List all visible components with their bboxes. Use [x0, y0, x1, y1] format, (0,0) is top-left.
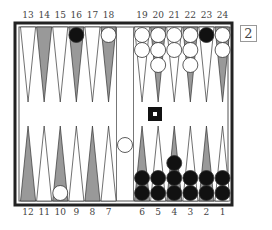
- black-checker-point-5[interactable]: [151, 171, 166, 186]
- point-label-12: 12: [20, 207, 36, 217]
- white-checker-point-19[interactable]: [135, 43, 150, 58]
- point-label-18: 18: [101, 10, 117, 20]
- black-checker-point-3[interactable]: [183, 171, 198, 186]
- point-label-16: 16: [68, 10, 84, 20]
- cube-value: 2: [244, 26, 252, 41]
- point-label-21: 21: [166, 10, 182, 20]
- black-checker-point-2[interactable]: [199, 171, 214, 186]
- point-label-14: 14: [36, 10, 52, 20]
- point-label-9: 9: [68, 207, 84, 217]
- white-checker-point-22[interactable]: [183, 58, 198, 73]
- white-checker-point-24[interactable]: [215, 43, 230, 58]
- point-label-8: 8: [84, 207, 100, 217]
- doubling-cube[interactable]: 2: [240, 25, 257, 42]
- black-checker-point-4[interactable]: [167, 171, 182, 186]
- point-label-1: 1: [215, 207, 231, 217]
- black-checker-point-6[interactable]: [135, 171, 150, 186]
- point-label-23: 23: [198, 10, 214, 20]
- white-checker-point-22[interactable]: [183, 43, 198, 58]
- white-checker-point-20[interactable]: [151, 28, 166, 43]
- point-label-3: 3: [182, 207, 198, 217]
- point-label-17: 17: [84, 10, 100, 20]
- white-checker-point-20[interactable]: [151, 58, 166, 73]
- white-checker-point-20[interactable]: [151, 43, 166, 58]
- point-label-24: 24: [215, 10, 231, 20]
- white-checker-point-22[interactable]: [183, 28, 198, 43]
- point-label-6: 6: [134, 207, 150, 217]
- black-checker-point-2[interactable]: [199, 186, 214, 201]
- white-checker-point-21[interactable]: [167, 28, 182, 43]
- point-label-22: 22: [182, 10, 198, 20]
- black-checker-point-5[interactable]: [151, 186, 166, 201]
- point-label-15: 15: [52, 10, 68, 20]
- white-checker-point-19[interactable]: [135, 28, 150, 43]
- black-checker-point-1[interactable]: [215, 171, 230, 186]
- point-label-10: 10: [52, 207, 68, 217]
- white-checker-point-18[interactable]: [101, 28, 116, 43]
- black-checker-point-16[interactable]: [69, 28, 84, 43]
- black-checker-point-4[interactable]: [167, 186, 182, 201]
- board-svg: [0, 0, 272, 230]
- point-label-19: 19: [134, 10, 150, 20]
- point-label-5: 5: [150, 207, 166, 217]
- black-checker-point-1[interactable]: [215, 186, 230, 201]
- black-checker-point-4[interactable]: [167, 156, 182, 171]
- white-checker-point-24[interactable]: [215, 28, 230, 43]
- turn-marker: [148, 107, 162, 121]
- black-checker-point-23[interactable]: [199, 28, 214, 43]
- white-checker-on-bar[interactable]: [118, 138, 133, 153]
- white-checker-point-10[interactable]: [53, 186, 68, 201]
- black-checker-point-3[interactable]: [183, 186, 198, 201]
- point-label-4: 4: [166, 207, 182, 217]
- white-checker-point-21[interactable]: [167, 43, 182, 58]
- point-label-2: 2: [198, 207, 214, 217]
- black-checker-point-6[interactable]: [135, 186, 150, 201]
- point-label-20: 20: [150, 10, 166, 20]
- point-label-11: 11: [36, 207, 52, 217]
- point-label-13: 13: [20, 10, 36, 20]
- point-label-7: 7: [101, 207, 117, 217]
